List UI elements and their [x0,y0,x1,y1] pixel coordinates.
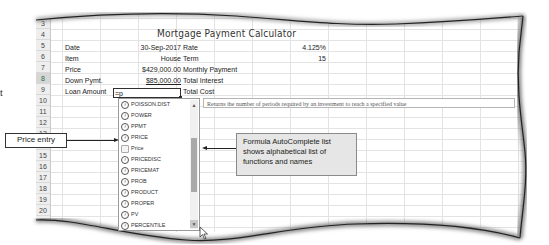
autocomplete-item[interactable]: fPOISSON.DIST [121,99,170,110]
function-icon: f [121,167,129,175]
row-header[interactable]: 11 [36,106,50,117]
autocomplete-item[interactable]: fPROB [121,176,147,187]
price-entry-callout: Price entry [5,133,67,148]
function-icon: f [121,222,129,230]
autocomplete-item[interactable]: fPROPER [121,198,154,209]
label-total-cost[interactable]: Total Cost [183,86,214,97]
label-term[interactable]: Term [183,53,199,64]
mouse-pointer-icon [199,226,209,240]
row-header[interactable]: 6 [36,51,50,62]
function-icon: f [121,211,129,219]
autocomplete-item[interactable]: fPOWER [121,110,152,121]
row-header[interactable]: 2 [36,7,50,18]
row-header[interactable]: 7 [36,62,50,73]
label-down-pymt[interactable]: Down Pymt. [65,75,103,86]
autocomplete-scrollbar[interactable]: ▲ ▼ [190,100,198,229]
row-header[interactable]: 21 [36,216,50,227]
label-total-interest[interactable]: Total Interest [183,75,223,86]
value-term[interactable]: 15 [318,53,326,64]
label-price[interactable]: Price [65,64,81,75]
row-header[interactable]: 19 [36,194,50,205]
function-icon: f [121,112,129,120]
worksheet: 2 3 4 5 6 7 8 9 10 11 12 13 14 15 16 17 … [36,12,523,232]
value-down-pymt[interactable]: $85,000.00 [146,75,181,86]
row-header[interactable]: 18 [36,183,50,194]
function-icon: f [121,200,129,208]
row-header[interactable]: 17 [36,172,50,183]
label-rate[interactable]: Rate [183,42,198,53]
autocomplete-item[interactable]: fPPMT [121,121,146,132]
function-icon: f [121,178,129,186]
formula-autocomplete-list[interactable]: fPOISSON.DIST fPOWER fPPMT fPRICE Price … [118,98,200,231]
autocomplete-item[interactable]: fPERCENTILE [121,220,166,231]
row-header-active[interactable]: 8 [36,73,50,84]
autocomplete-item-name[interactable]: Price [121,143,144,154]
row-header[interactable]: 5 [36,40,50,51]
function-icon: f [121,101,129,109]
value-date[interactable]: 30-Sep-2017 [141,42,181,53]
autocomplete-item[interactable]: fPRODUCT [121,187,158,198]
row-header[interactable]: 15 [36,150,50,161]
value-rate[interactable]: 4.125% [302,42,326,53]
function-tooltip: Returns the number of periods required b… [203,98,515,108]
row-header[interactable]: 12 [36,117,50,128]
autocomplete-item[interactable]: fPV [121,209,138,220]
scroll-thumb[interactable] [191,138,197,192]
arrow-right-icon [114,138,119,142]
cell-grid [36,12,523,232]
callout-arrow-line [67,140,115,141]
function-icon: f [121,189,129,197]
scroll-up-arrow-icon[interactable]: ▲ [190,101,198,109]
label-date[interactable]: Date [65,42,80,53]
value-price[interactable]: $429,000.00 [142,64,181,75]
row-header[interactable]: 20 [36,205,50,216]
row-header[interactable]: 16 [36,161,50,172]
label-loan-amount[interactable]: Loan Amount [65,86,106,97]
callout-arrow-line [206,148,236,149]
sheet-title: Mortgage Payment Calculator [157,27,296,41]
named-range-icon [121,145,129,153]
label-monthly-payment[interactable]: Monthly Payment [183,64,237,75]
autocomplete-item[interactable]: fPRICEMAT [121,165,159,176]
row-header[interactable]: 3 [36,18,50,29]
arrow-left-icon [202,146,207,150]
function-icon: f [121,134,129,142]
row-header[interactable]: 9 [36,84,50,95]
function-icon: f [121,123,129,131]
autocomplete-item[interactable]: fPRICEDISC [121,154,161,165]
function-icon: f [121,156,129,164]
scroll-down-arrow-icon[interactable]: ▼ [190,220,198,228]
label-item[interactable]: Item [65,53,79,64]
loan-amount-input[interactable]: =p [113,88,181,98]
value-item[interactable]: House [161,53,181,64]
formula-entry: =p [115,90,123,97]
row-header[interactable]: 4 [36,29,50,40]
row-headers: 2 3 4 5 6 7 8 9 10 11 12 13 14 15 16 17 … [36,12,51,245]
autocomplete-callout: Formula AutoComplete list shows alphabet… [236,133,357,176]
row-header[interactable]: 10 [36,95,50,106]
cropped-page-text: t [0,87,3,98]
autocomplete-item[interactable]: fPRICE [121,132,148,143]
